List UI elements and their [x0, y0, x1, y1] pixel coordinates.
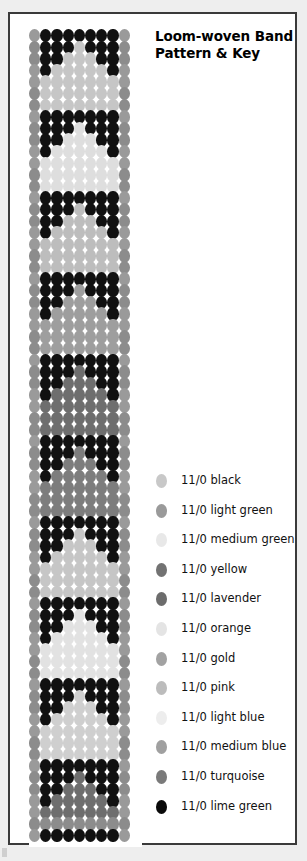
content-panel: Loom-woven Band Pattern & Key 11/0 black…	[8, 12, 297, 845]
page-title-line-2: Pattern & Key	[155, 45, 295, 62]
bead	[74, 829, 85, 842]
bead-row	[29, 29, 130, 41]
bead-row	[29, 597, 130, 609]
bead-row	[29, 481, 130, 493]
bead-row	[29, 64, 130, 76]
bead-swatch-icon	[156, 681, 167, 695]
bead-row	[29, 180, 130, 192]
bead	[107, 829, 118, 842]
legend-item-label: 11/0 lavender	[181, 590, 261, 606]
bead-row	[29, 736, 130, 748]
legend-item-label: 11/0 gold	[181, 650, 235, 666]
bead-swatch-icon	[156, 652, 167, 666]
bead-row	[29, 783, 130, 795]
bead-swatch-icon	[156, 800, 167, 814]
bead-row	[29, 493, 130, 505]
legend-item-label: 11/0 black	[181, 472, 241, 488]
bead	[40, 829, 51, 842]
bead-row	[29, 330, 130, 342]
bead-row	[29, 586, 130, 598]
legend-item: 11/0 turquoise	[156, 765, 296, 795]
bead-swatch-icon	[156, 622, 167, 636]
bead-row	[29, 609, 130, 621]
bead-row	[29, 226, 130, 238]
bead-row	[29, 110, 130, 122]
legend-item-label: 11/0 orange	[181, 620, 251, 636]
color-key-legend: 11/0 black11/0 light green11/0 medium gr…	[156, 469, 296, 824]
bead-row	[29, 655, 130, 667]
legend-item: 11/0 black	[156, 469, 296, 499]
bead-row	[29, 806, 130, 818]
bead-row	[29, 539, 130, 551]
legend-item: 11/0 gold	[156, 647, 296, 677]
bead-row	[29, 667, 130, 679]
legend-item: 11/0 orange	[156, 617, 296, 647]
bead-swatch-icon	[156, 563, 167, 577]
bead	[85, 829, 96, 842]
bead-row	[29, 168, 130, 180]
bead-row	[29, 133, 130, 145]
bead-row	[29, 423, 130, 435]
legend-item: 11/0 lavender	[156, 587, 296, 617]
bead-row	[29, 632, 130, 644]
legend-item: 11/0 medium green	[156, 528, 296, 558]
bead-row	[29, 365, 130, 377]
page-title: Loom-woven Band Pattern & Key	[155, 28, 295, 62]
bead-row	[29, 191, 130, 203]
bead-row	[29, 400, 130, 412]
bead-swatch-icon	[156, 474, 167, 488]
bead-row	[29, 504, 130, 516]
bead-row	[29, 52, 130, 64]
bead-row	[29, 643, 130, 655]
bead-swatch-icon	[156, 740, 167, 754]
bead-swatch-icon	[156, 504, 167, 518]
bead-swatch-icon	[156, 711, 167, 725]
legend-item: 11/0 medium blue	[156, 735, 296, 765]
bead-row	[29, 690, 130, 702]
bead	[63, 829, 74, 842]
bead-row	[29, 284, 130, 296]
bead-row	[29, 354, 130, 366]
bead-row	[29, 377, 130, 389]
bead-row	[29, 528, 130, 540]
bead-row	[29, 701, 130, 713]
bead-row	[29, 157, 130, 169]
bead-row	[29, 319, 130, 331]
bead-swatch-icon	[156, 533, 167, 547]
bead	[119, 829, 130, 842]
bead-row	[29, 342, 130, 354]
bead-row	[29, 516, 130, 528]
bead-row	[29, 551, 130, 563]
bead-row	[29, 261, 130, 273]
bead-pattern-chart	[29, 29, 142, 847]
bead-row	[29, 574, 130, 586]
bead-row	[29, 307, 130, 319]
bead-swatch-icon	[156, 592, 167, 606]
bead-row	[29, 759, 130, 771]
bead	[96, 829, 107, 842]
bead-row	[29, 771, 130, 783]
bead-row	[29, 296, 130, 308]
bead-row	[29, 388, 130, 400]
bead-row	[29, 249, 130, 261]
bead-row	[29, 678, 130, 690]
bead-row	[29, 203, 130, 215]
bead-row	[29, 794, 130, 806]
bead-row	[29, 458, 130, 470]
bead-row	[29, 562, 130, 574]
bead-row	[29, 272, 130, 284]
legend-item: 11/0 lime green	[156, 795, 296, 825]
bead-row	[29, 713, 130, 725]
bead-row	[29, 446, 130, 458]
legend-item: 11/0 light green	[156, 499, 296, 529]
bead	[29, 829, 40, 842]
legend-item: 11/0 light blue	[156, 706, 296, 736]
legend-item-label: 11/0 medium green	[181, 531, 295, 547]
legend-item-label: 11/0 lime green	[181, 798, 272, 814]
bead-row	[29, 238, 130, 250]
bead-row	[29, 75, 130, 87]
bead-row	[29, 122, 130, 134]
bead-row	[29, 412, 130, 424]
legend-item-label: 11/0 light green	[181, 502, 273, 518]
legend-item-label: 11/0 light blue	[181, 709, 264, 725]
